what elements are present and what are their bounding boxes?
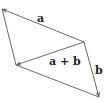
label-b: b	[95, 64, 103, 77]
label-a: a	[37, 12, 44, 25]
vector-b-translated-line	[2, 9, 16, 65]
vector-parallelogram-diagram: a a + b b	[0, 0, 108, 110]
label-a-plus-b: a + b	[49, 55, 81, 68]
vector-a-translated-line	[16, 65, 99, 97]
